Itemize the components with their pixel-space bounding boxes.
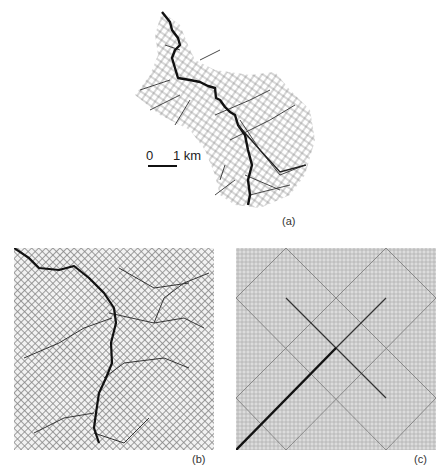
scale-bar-end: 1 km <box>173 148 201 163</box>
river-network-graphic <box>120 0 330 220</box>
scale-bar: 0 1 km <box>146 148 206 172</box>
panel-b-ocn: (b) <box>14 248 214 472</box>
scale-bar-start: 0 <box>146 148 153 163</box>
scale-bar-line <box>148 165 177 167</box>
panel-b-label: (b) <box>192 453 205 465</box>
ocn-graphic <box>14 248 214 450</box>
peano-graphic <box>236 248 436 450</box>
panel-a-label: (a) <box>282 215 295 227</box>
panel-c-label: (c) <box>414 453 427 465</box>
panel-c-peano: (c) <box>236 248 436 472</box>
panel-a-river-network: (a) <box>120 0 330 230</box>
